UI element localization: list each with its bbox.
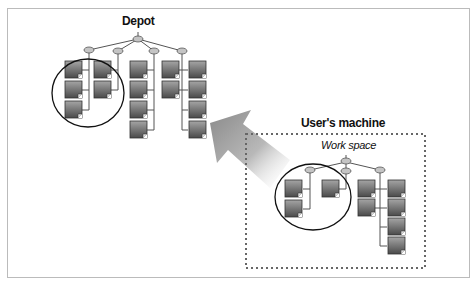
- depot-root-node: [133, 36, 143, 42]
- workspace-root-node: [341, 158, 351, 164]
- depot-title: Depot: [122, 14, 155, 28]
- depot-nodes: [84, 36, 187, 54]
- workspace-files: [285, 180, 405, 254]
- diagram-canvas: [0, 0, 476, 286]
- depot-selection-circle: [52, 59, 124, 127]
- users-machine-title: User's machine: [301, 116, 385, 130]
- workspace-nodes: [305, 158, 385, 174]
- submit-arrow: [210, 110, 290, 188]
- workspace-label: Work space: [321, 139, 376, 151]
